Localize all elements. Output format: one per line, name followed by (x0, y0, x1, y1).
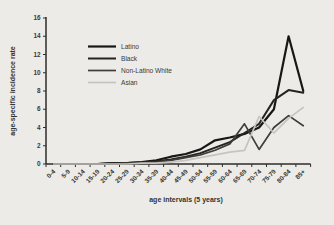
y-tick-label: 12 (33, 51, 41, 58)
x-axis-title: age intervals (5 years) (149, 196, 223, 204)
x-tick-label: 35-39 (143, 167, 160, 184)
plot-area: 02468101214160-45-910-1415-1920-2425-293… (33, 14, 310, 184)
y-tick-label: 14 (33, 32, 41, 39)
x-tick-label: 0-4 (45, 167, 57, 179)
y-axis-title: age-specific incidence rate (9, 46, 17, 136)
x-tick-label: 10-14 (69, 167, 86, 184)
x-tick-label: 45-49 (172, 167, 189, 184)
x-tick-label: 75-79 (261, 167, 278, 184)
series-line-latino (53, 36, 303, 164)
x-tick-label: 25-29 (114, 167, 131, 184)
y-tick-label: 6 (37, 105, 41, 112)
y-tick-label: 0 (37, 160, 41, 167)
x-tick-label: 40-44 (158, 167, 175, 184)
y-tick-label: 10 (33, 69, 41, 76)
x-tick-label: 65-69 (231, 167, 248, 184)
x-tick-label: 50-54 (187, 167, 204, 184)
x-tick-label: 85+ (294, 168, 307, 181)
legend-label-non-latino-white: Non-Latino White (121, 67, 172, 74)
x-tick-label: 80-84 (275, 167, 292, 184)
x-tick-label: 15-19 (84, 167, 101, 184)
x-tick-label: 55-59 (202, 167, 219, 184)
x-tick-label: 30-34 (128, 167, 145, 184)
legend-label-latino: Latino (121, 43, 139, 50)
legend-label-black: Black (121, 55, 138, 62)
figure: 02468101214160-45-910-1415-1920-2425-293… (0, 0, 334, 225)
series-line-black (53, 90, 303, 164)
x-tick-label: 60-64 (216, 167, 233, 184)
line-chart: 02468101214160-45-910-1415-1920-2425-293… (0, 0, 334, 225)
y-tick-label: 8 (37, 87, 41, 94)
x-tick-label: 5-9 (60, 167, 72, 179)
y-tick-label: 2 (37, 142, 41, 149)
y-tick-label: 16 (33, 14, 41, 21)
x-tick-label: 70-74 (246, 167, 263, 184)
legend-label-asian: Asian (121, 79, 138, 86)
x-tick-label: 20-24 (99, 167, 116, 184)
y-tick-label: 4 (37, 124, 41, 131)
